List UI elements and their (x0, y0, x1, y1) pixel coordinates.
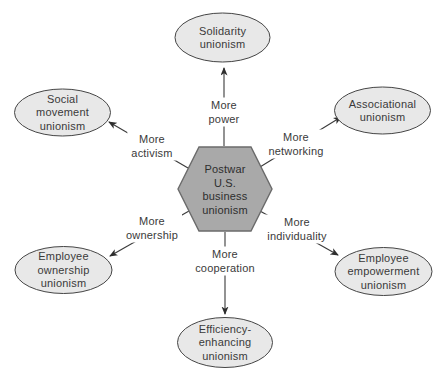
edge-label-more-power: More power (205, 98, 244, 127)
center-node-label: Postwar U.S. business unionism (185, 163, 265, 217)
node-label-associational-unionism: Associational unionism (337, 97, 429, 124)
edge-label-more-individuality: More individuality (263, 215, 330, 244)
node-label-employee-empowerment-unionism: Employee empowerment unionism (338, 251, 430, 292)
edge-label-more-ownership: More ownership (122, 214, 182, 243)
edge-label-more-activism: More activism (127, 132, 176, 161)
diagram-canvas: Solidarity unionism Social movement unio… (0, 0, 443, 383)
node-label-solidarity-unionism: Solidarity unionism (177, 24, 269, 51)
node-label-efficiency-enhancing-unionism: Efficiency- enhancing unionism (179, 322, 271, 363)
edge-label-more-cooperation: More cooperation (191, 247, 259, 276)
node-label-social-movement-unionism: Social movement unionism (17, 92, 109, 133)
node-label-employee-ownership-unionism: Employee ownership unionism (18, 250, 110, 291)
edge-label-more-networking: More networking (264, 130, 327, 159)
